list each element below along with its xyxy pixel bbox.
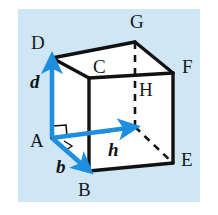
vertex-label-F: F xyxy=(182,57,193,76)
vector-label-h: h xyxy=(108,140,119,159)
vertex-label-A: A xyxy=(30,131,44,150)
cube-front-face xyxy=(89,73,173,171)
vertex-label-B: B xyxy=(78,180,91,199)
vector-label-d: d xyxy=(30,72,40,91)
vertex-label-E: E xyxy=(181,150,193,169)
vertex-label-G: G xyxy=(130,12,144,31)
vector-label-b: b xyxy=(56,157,66,176)
vertex-label-C: C xyxy=(93,57,106,76)
vertex-label-H: H xyxy=(139,80,153,99)
cube-vector-figure: D G C F A B H E d b h xyxy=(0,0,218,215)
vertex-label-D: D xyxy=(31,33,45,52)
